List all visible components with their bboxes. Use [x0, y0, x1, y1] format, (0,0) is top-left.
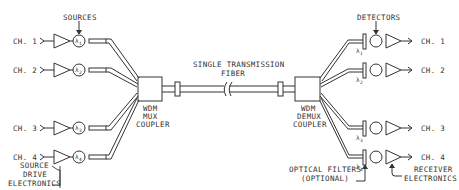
drive-amplifier-icon	[54, 121, 70, 135]
detector-icon	[370, 122, 382, 134]
connector-right	[278, 82, 283, 96]
demux-label-3: COUPLER	[293, 120, 327, 129]
input-channel-3	[40, 93, 138, 135]
svg-text:λ3: λ3	[356, 134, 363, 143]
receiver-amplifier-icon	[386, 63, 401, 77]
fiber-label-1: SINGLE TRANSMISSION	[193, 60, 285, 69]
detector-icon	[370, 64, 382, 76]
input-ch1-label: CH. 1	[13, 37, 37, 46]
detectors-label: DETECTORS	[357, 13, 401, 22]
input-ch3-label: CH. 3	[13, 124, 37, 133]
output-channel-1	[363, 34, 412, 49]
sources-label: SOURCES	[63, 13, 97, 22]
output-channel-2	[363, 63, 412, 78]
source-drive-label-1: SOURCE	[20, 161, 49, 170]
detector-icon	[370, 35, 382, 47]
svg-text:λ1: λ1	[356, 47, 363, 56]
source-drive-label-2: DRIVE	[23, 170, 47, 179]
output-channel-3	[363, 121, 412, 136]
input-arrow-icon	[40, 125, 44, 131]
drive-amplifier-icon	[54, 34, 70, 48]
fiber-break-icon	[224, 82, 227, 96]
svg-text:λ4: λ4	[75, 153, 82, 162]
receiver-amplifier-icon	[386, 150, 401, 164]
output-ch2-label: CH. 2	[421, 66, 445, 75]
receiver-label-1: RECEIVER	[414, 165, 453, 174]
input-channel-2	[40, 63, 138, 87]
input-arrow-icon	[40, 154, 44, 160]
wdm-system-diagram: SOURCES DETECTORS CH. 1 CH. 2 CH. 3 CH. …	[0, 0, 459, 190]
optical-filters-label-1: OPTICAL FILTERS	[289, 165, 361, 174]
wdm-mux-coupler	[138, 77, 162, 101]
output-channel-4	[363, 150, 412, 165]
mux-label-3: COUPLER	[136, 120, 170, 129]
svg-text:λ1: λ1	[75, 37, 82, 46]
source-drive-label-3: ELECTRONICS	[8, 179, 61, 188]
optical-filter-icon	[363, 34, 366, 49]
optical-filters-label-2: (OPTIONAL)	[301, 174, 349, 183]
optical-filter-icon	[363, 121, 366, 136]
fiber-label-2: FIBER	[221, 69, 245, 78]
output-ch1-label: CH. 1	[421, 37, 445, 46]
receiver-amplifier-icon	[386, 34, 401, 48]
connector-left	[175, 82, 180, 96]
svg-text:λ3: λ3	[75, 124, 82, 133]
detector-icon	[370, 151, 382, 163]
receiver-amplifier-icon	[386, 121, 401, 135]
output-ch3-label: CH. 3	[421, 124, 445, 133]
input-channel-1	[40, 34, 139, 81]
svg-text:λ2: λ2	[75, 66, 82, 75]
wdm-demux-coupler	[295, 77, 320, 101]
receiver-label-2: ELECTRONICS	[404, 174, 457, 183]
svg-text:λ2: λ2	[356, 76, 363, 85]
drive-amplifier-icon	[54, 150, 70, 164]
optical-filter-icon	[363, 150, 366, 165]
drive-amplifier-icon	[54, 63, 70, 77]
output-ch4-label: CH. 4	[421, 153, 445, 162]
optical-filter-icon	[363, 63, 366, 78]
input-ch2-label: CH. 2	[13, 66, 37, 75]
input-arrow-icon	[40, 67, 44, 73]
input-arrow-icon	[40, 38, 44, 44]
